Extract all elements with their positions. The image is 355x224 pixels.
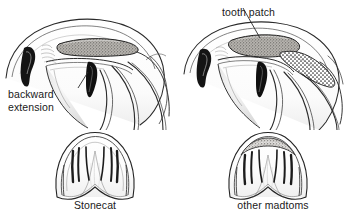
panel-right-ventral-view (213, 125, 323, 203)
panel-left-ventral-view (40, 125, 150, 203)
right-head-illustration (180, 0, 355, 130)
label-backward-extension: backward extension (8, 88, 100, 113)
panel-right-lateral-head (180, 0, 355, 130)
caption-other-madtoms: other madtoms (208, 199, 338, 212)
right-ventral-illustration (213, 125, 323, 203)
anatomy-figure: backward extension (0, 0, 355, 224)
label-tooth-patch: tooth patch (222, 6, 314, 19)
caption-stonecat: Stonecat (42, 199, 148, 212)
left-ventral-illustration (40, 125, 150, 203)
